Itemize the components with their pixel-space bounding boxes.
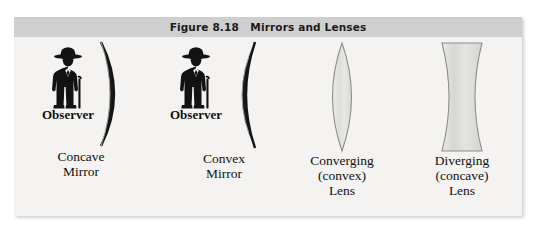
caption-converging-lens: Converging (convex) Lens (282, 153, 402, 198)
caption-concave-mirror: Concave Mirror (18, 149, 144, 179)
figure-body: Observer Concave Mirror (14, 37, 522, 216)
figure-title-bar: Figure 8.18 Mirrors and Lenses (14, 17, 522, 37)
observer-silhouette-icon (32, 43, 104, 113)
caption-diverging-lens: Diverging (concave) Lens (402, 153, 522, 198)
observer-label-convex: Observer (160, 107, 232, 123)
convex-mirror-shape (224, 39, 264, 151)
observer-label-concave: Observer (32, 107, 104, 123)
concave-mirror-shape (96, 39, 132, 149)
figure-panel: Figure 8.18 Mirrors and Lenses (14, 17, 522, 216)
converging-lens-shape (312, 41, 372, 153)
figure-item-diverging-lens: Diverging (concave) Lens (402, 37, 522, 216)
caption-convex-mirror: Convex Mirror (172, 151, 276, 181)
figure-item-concave-mirror: Observer Concave Mirror (18, 37, 144, 216)
figure-item-convex-mirror: Observer Convex Mirror (150, 37, 276, 216)
observer-convex-mirror: Observer (160, 43, 232, 131)
observer-silhouette-icon (160, 43, 232, 113)
figure-title: Figure 8.18 Mirrors and Lenses (170, 21, 367, 33)
observer-concave-mirror: Observer (32, 43, 104, 131)
figure-item-converging-lens: Converging (convex) Lens (282, 37, 402, 216)
diverging-lens-shape (430, 41, 494, 153)
